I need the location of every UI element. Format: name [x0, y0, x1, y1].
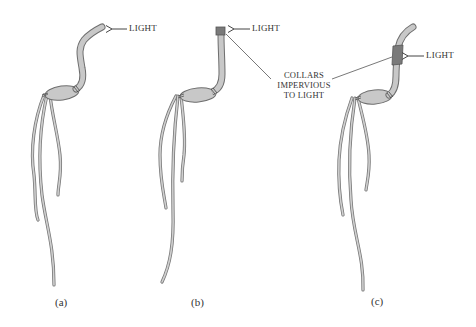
- collar-c: [392, 45, 403, 65]
- phototropism-diagram: LIGHT LIGHT LIGHT COLLARS IMPERVIOUS TO …: [0, 0, 476, 327]
- light-label-c: LIGHT: [426, 50, 454, 60]
- panel-label-c: (c): [371, 295, 383, 307]
- panel-label-a: (a): [55, 296, 67, 308]
- tip-collar-b: [216, 27, 225, 35]
- panel-label-b: (b): [191, 296, 204, 308]
- roots-c: [339, 98, 369, 290]
- seedling-c: [332, 27, 424, 290]
- seedling-b: [160, 27, 271, 282]
- collar-annotation-line2: IMPERVIOUS: [270, 80, 338, 90]
- collar-pointer-c: [332, 57, 392, 79]
- light-label-b: LIGHT: [252, 23, 280, 33]
- collar-pointer-b: [226, 34, 271, 79]
- collar-annotation-line3: TO LIGHT: [270, 90, 338, 100]
- roots-b: [160, 96, 185, 282]
- seedling-a: [32, 27, 127, 285]
- diagram-canvas: [0, 0, 476, 327]
- collar-annotation-line1: COLLARS: [270, 70, 338, 80]
- light-label-a: LIGHT: [129, 23, 157, 33]
- collar-annotation: COLLARS IMPERVIOUS TO LIGHT: [270, 70, 338, 100]
- roots-a: [32, 95, 60, 285]
